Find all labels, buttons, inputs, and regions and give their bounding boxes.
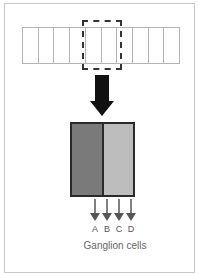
output-label-b: B <box>104 225 110 234</box>
strip-cell <box>23 28 39 63</box>
caption-ganglion-cells: Ganglion cells <box>84 241 147 251</box>
selection-dashed-box <box>82 20 122 70</box>
output-label-c: C <box>116 225 123 234</box>
strip-cell <box>149 28 165 63</box>
output-label-d: D <box>128 225 135 234</box>
strip-cell <box>39 28 55 63</box>
output-label-a: A <box>92 225 98 234</box>
down-arrow-icon <box>102 199 112 221</box>
down-arrow-icon <box>126 199 136 221</box>
receptive-field-box <box>70 122 135 197</box>
output-arrows <box>88 199 138 223</box>
receptive-field-light-half <box>104 124 134 195</box>
down-arrow-icon <box>90 199 100 221</box>
strip-cell <box>164 28 179 63</box>
strip-cell <box>54 28 70 63</box>
strip-cell <box>133 28 149 63</box>
down-arrow-icon <box>114 199 124 221</box>
down-arrow-icon <box>90 75 116 119</box>
receptive-field-dark-half <box>72 124 104 195</box>
